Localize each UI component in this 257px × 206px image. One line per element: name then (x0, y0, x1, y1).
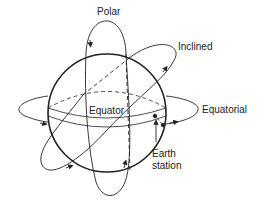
label-equatorial: Equatorial (202, 104, 247, 115)
label-equator: Equator (89, 105, 125, 116)
label-earth-station-line2: station (152, 160, 181, 171)
label-inclined: Inclined (178, 41, 212, 52)
label-earth-station-line1: Earth (152, 148, 176, 159)
orbit-diagram: Polar Inclined Equatorial Equator Earth … (0, 0, 257, 206)
label-polar: Polar (97, 6, 121, 17)
